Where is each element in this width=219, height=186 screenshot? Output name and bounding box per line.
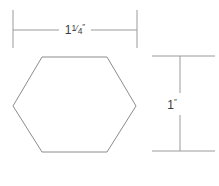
width-dimension-group: 11⁄4″ [13, 10, 137, 48]
diagram-canvas: 11⁄4″ 1″ [0, 0, 219, 186]
width-label-inch-mark: ″ [82, 22, 85, 31]
height-dimension-group: 1″ [152, 56, 215, 151]
height-dimension-label: 1″ [167, 97, 177, 112]
hexagon-shape [13, 57, 136, 152]
dimension-diagram: 11⁄4″ 1″ [0, 0, 219, 186]
width-dimension-label: 11⁄4″ [65, 22, 86, 37]
height-label-inch-mark: ″ [174, 97, 177, 106]
